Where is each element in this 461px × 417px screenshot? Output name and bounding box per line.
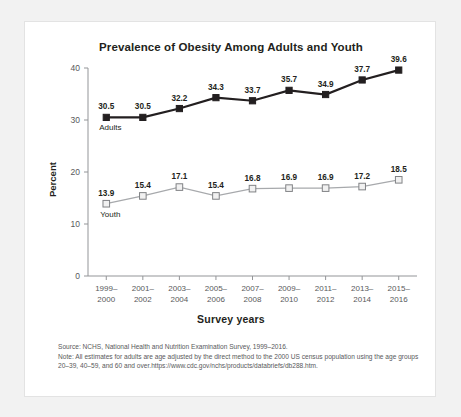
data-point-label: 30.5 — [98, 102, 114, 111]
data-point-label: 16.8 — [245, 174, 261, 183]
x-axis-tick-label: 2005–2006 — [205, 284, 227, 305]
data-point-label: 34.9 — [318, 80, 334, 89]
data-point-label: 17.2 — [354, 172, 370, 181]
x-axis-tick-label: 1999–2000 — [95, 284, 117, 305]
footnote-note: Note: All estimates for adults are age a… — [58, 352, 424, 370]
y-axis-tick-label: 30 — [71, 115, 80, 125]
footnote: Source: NCHS, National Health and Nutrit… — [58, 342, 424, 370]
data-point-label: 39.6 — [391, 55, 407, 64]
data-point-label: 13.9 — [98, 189, 114, 198]
chart-card: Prevalence of Obesity Among Adults and Y… — [24, 21, 436, 397]
data-point-label: 17.1 — [171, 172, 187, 181]
data-point-label: 37.7 — [354, 65, 370, 74]
x-axis-tick-label: 2011–2012 — [315, 284, 337, 305]
y-axis-tick-label: 20 — [71, 167, 80, 177]
data-point-label: 15.4 — [135, 181, 151, 190]
data-point-label: 16.9 — [281, 173, 297, 182]
x-axis-tick-label: 2015–2016 — [388, 284, 410, 305]
data-point-label: 32.2 — [171, 94, 187, 103]
y-axis-tick-label: 40 — [71, 63, 80, 73]
series-label-youth: Youth — [100, 210, 120, 219]
x-axis-tick-label: 2009–2010 — [278, 284, 300, 305]
data-point-label: 34.3 — [208, 83, 224, 92]
data-point-label: 30.5 — [135, 102, 151, 111]
x-axis-tick-label: 2007–2008 — [241, 284, 263, 305]
footnote-source: Source: NCHS, National Health and Nutrit… — [58, 342, 424, 351]
series-label-adults: Adults — [99, 123, 121, 132]
x-axis-tick-label: 2003–2004 — [168, 284, 190, 305]
x-axis-tick-label: 2013–2014 — [351, 284, 373, 305]
data-point-label: 33.7 — [245, 86, 261, 95]
data-point-label: 35.7 — [281, 75, 297, 84]
y-axis-tick-label: 0 — [75, 271, 80, 281]
data-point-label: 16.9 — [318, 173, 334, 182]
x-axis-tick-label: 2001–2002 — [132, 284, 154, 305]
data-point-label: 15.4 — [208, 181, 224, 190]
data-point-label: 18.5 — [391, 165, 407, 174]
y-axis-tick-label: 10 — [71, 219, 80, 229]
